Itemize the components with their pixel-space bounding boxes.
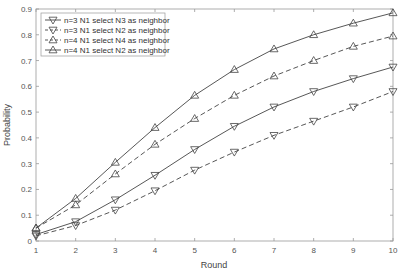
x-tick-label: 7 (272, 246, 277, 255)
x-tick-label: 3 (113, 246, 118, 255)
x-tick-label: 2 (73, 246, 78, 255)
y-tick-label: 0.5 (21, 108, 33, 117)
y-tick-label: 0.4 (21, 134, 33, 143)
y-tick-label: 0.9 (21, 5, 33, 14)
y-tick-label: 0.8 (21, 31, 33, 40)
y-tick-label: 0 (28, 237, 33, 246)
x-tick-label: 9 (351, 246, 356, 255)
x-tick-label: 4 (153, 246, 158, 255)
x-tick-label: 10 (389, 246, 398, 255)
y-axis-label: Probability (2, 103, 12, 146)
series-line (36, 67, 393, 235)
x-tick-label: 8 (311, 246, 316, 255)
x-axis-label: Round (201, 260, 228, 270)
line-chart: 1234567891000.10.20.30.40.50.60.70.80.9 … (0, 0, 405, 275)
x-tick-label: 5 (192, 246, 197, 255)
x-tick-label: 6 (232, 246, 237, 255)
legend-entry: n=4 N1 select N2 as neighbor (64, 46, 170, 55)
legend-entry: n=3 N1 select N2 as neighbor (64, 26, 170, 35)
y-tick-label: 0.1 (21, 211, 33, 220)
series-line (36, 36, 393, 228)
legend-entry: n=4 N1 select N4 as neighbor (64, 36, 170, 45)
legend-entry: n=3 N1 select N3 as neighbor (64, 16, 170, 25)
legend: n=3 N1 select N3 as neighborn=3 N1 selec… (41, 13, 170, 56)
y-tick-label: 0.3 (21, 160, 33, 169)
y-tick-label: 0.2 (21, 185, 33, 194)
y-tick-label: 0.7 (21, 57, 33, 66)
y-tick-label: 0.6 (21, 82, 33, 91)
x-tick-label: 1 (34, 246, 39, 255)
